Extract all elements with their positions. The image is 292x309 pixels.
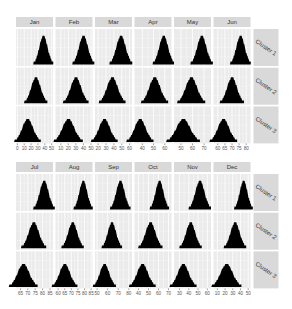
month-strip-label: Sep: [108, 164, 119, 170]
density-panel: [209, 106, 251, 143]
x-tick-label: 65: [18, 291, 24, 296]
density-panel: [13, 106, 53, 143]
x-tick-label: 65: [62, 291, 68, 296]
density-panel: [16, 174, 55, 211]
x-tick-label: 80: [40, 291, 46, 296]
month-strip-label: Apr: [148, 19, 157, 25]
x-tick-label: 50: [119, 146, 125, 151]
density-panel: [95, 29, 132, 66]
density-panel: [174, 29, 213, 66]
x-tick-label: 60: [190, 146, 196, 151]
x-tick-label: 40: [140, 146, 146, 151]
density-panel: [174, 68, 211, 105]
month-strip-label: Jan: [30, 19, 40, 25]
x-tick-label: 50: [178, 146, 184, 151]
x-tick-label: 50: [246, 291, 252, 296]
x-tick-label: 40: [186, 291, 192, 296]
density-panel: [95, 68, 132, 105]
faceted-density-chart: Jan01020304050Feb1020304050Mar2030405060…: [0, 0, 292, 309]
density-panel: [169, 251, 211, 288]
x-tick-label: 30: [73, 146, 79, 151]
x-tick-label: 50: [151, 146, 157, 151]
month-strip-label: Dec: [227, 164, 238, 170]
density-panel: [126, 106, 172, 143]
x-tick-label: 30: [103, 146, 109, 151]
x-tick-label: 70: [69, 291, 75, 296]
x-tick-label: 50: [95, 291, 101, 296]
x-tick-label: 20: [96, 146, 102, 151]
month-strip-label: Aug: [69, 164, 80, 170]
x-tick-label: 80: [244, 146, 250, 151]
density-panel: [16, 213, 53, 250]
x-tick-label: 40: [81, 146, 87, 151]
facet-block-1: Jan01020304050Feb1020304050Mar2030405060…: [13, 17, 278, 151]
x-tick-label: 75: [237, 146, 243, 151]
x-tick-label: 70: [229, 146, 235, 151]
month-strip-label: Jun: [227, 19, 237, 25]
density-panel: [128, 251, 171, 288]
density-panel: [51, 251, 92, 288]
x-tick-label: 20: [29, 146, 35, 151]
x-tick-label: 40: [136, 291, 142, 296]
facet-block-2: Jul6570758085Aug606570758085Sep50607080O…: [8, 162, 278, 296]
x-tick-label: 10: [215, 291, 221, 296]
x-tick-label: 40: [238, 291, 244, 296]
density-panel: [214, 29, 251, 66]
density-panel: [135, 174, 172, 211]
x-tick-label: 65: [222, 146, 228, 151]
x-tick-label: 30: [35, 146, 41, 151]
month-strip-label: May: [187, 19, 198, 25]
x-tick-label: 60: [205, 291, 211, 296]
density-panel: [214, 68, 251, 105]
density-panel: [56, 213, 93, 250]
x-tick-label: 75: [33, 291, 39, 296]
month-strip-label: Oct: [148, 164, 158, 170]
density-panel: [214, 213, 251, 250]
x-tick-label: 70: [116, 291, 122, 296]
density-panel: [16, 29, 53, 66]
density-panel: [53, 106, 93, 143]
density-panel: [56, 29, 95, 66]
x-tick-label: 70: [166, 291, 172, 296]
x-tick-label: 70: [202, 146, 208, 151]
density-panel: [90, 106, 132, 143]
density-panel: [135, 213, 172, 250]
density-panel: [16, 68, 53, 105]
density-panel: [92, 251, 132, 288]
x-tick-label: 70: [25, 291, 31, 296]
x-tick-label: 0: [16, 146, 19, 151]
x-tick-label: 80: [82, 291, 88, 296]
density-panel: [135, 29, 175, 66]
x-tick-label: 20: [223, 291, 229, 296]
x-tick-label: 50: [195, 291, 201, 296]
x-tick-label: 85: [47, 291, 53, 296]
month-strip-label: Nov: [187, 164, 198, 170]
density-panel: [95, 174, 132, 211]
month-strip-label: Feb: [69, 19, 80, 25]
density-panel: [95, 213, 132, 250]
x-tick-label: 75: [75, 291, 81, 296]
month-strip-label: Jul: [31, 164, 39, 170]
x-tick-label: 80: [126, 291, 132, 296]
x-tick-label: 60: [162, 146, 168, 151]
density-panel: [135, 68, 172, 105]
x-tick-label: 10: [58, 146, 64, 151]
x-tick-label: 60: [56, 291, 62, 296]
x-tick-label: 85: [89, 291, 95, 296]
x-tick-label: 50: [88, 146, 94, 151]
density-panel: [174, 213, 211, 250]
density-panel: [214, 174, 253, 211]
x-tick-label: 40: [111, 146, 117, 151]
x-tick-label: 60: [215, 146, 221, 151]
density-panel: [165, 106, 211, 143]
month-strip-label: Mar: [108, 19, 118, 25]
density-panel: [56, 68, 93, 105]
x-tick-label: 30: [230, 291, 236, 296]
x-tick-label: 10: [22, 146, 28, 151]
x-tick-label: 20: [66, 146, 72, 151]
x-tick-label: 60: [105, 291, 111, 296]
x-tick-label: 60: [156, 291, 162, 296]
x-tick-label: 50: [146, 291, 152, 296]
x-tick-label: 30: [177, 291, 183, 296]
density-panel: [8, 251, 53, 288]
